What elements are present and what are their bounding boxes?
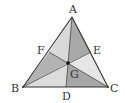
centroid-point: [66, 61, 70, 65]
label-F: F: [37, 44, 45, 57]
label-C: C: [110, 82, 118, 95]
label-A: A: [68, 3, 78, 16]
label-E: E: [93, 44, 101, 57]
label-G: G: [70, 68, 79, 81]
triangle-diagram: A B C D E F G: [0, 0, 126, 103]
label-D: D: [62, 90, 71, 103]
label-B: B: [11, 82, 19, 95]
vertex-point-C: [107, 86, 109, 88]
vertex-point-B: [22, 86, 24, 88]
